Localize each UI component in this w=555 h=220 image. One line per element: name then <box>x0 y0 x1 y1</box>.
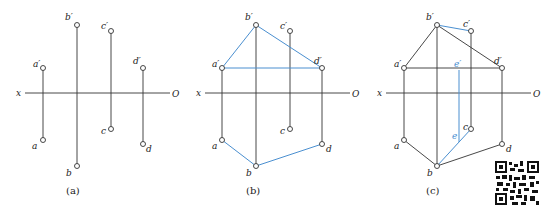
svg-text:d′: d′ <box>133 56 141 66</box>
svg-text:b′: b′ <box>426 12 434 22</box>
svg-text:a: a <box>212 141 217 151</box>
svg-text:c′: c′ <box>101 21 108 31</box>
svg-text:a: a <box>394 141 399 151</box>
svg-text:b′: b′ <box>245 12 253 22</box>
svg-text:c: c <box>101 126 106 136</box>
svg-text:c: c <box>280 126 285 136</box>
svg-text:O: O <box>172 89 180 99</box>
svg-text:O: O <box>352 89 360 99</box>
svg-text:e′: e′ <box>454 59 461 69</box>
svg-text:(a): (a) <box>66 185 80 196</box>
svg-text:(c): (c) <box>426 185 440 196</box>
svg-text:x: x <box>377 88 382 98</box>
svg-text:O: O <box>533 89 541 99</box>
svg-text:b: b <box>246 168 252 178</box>
svg-text:b′: b′ <box>65 12 73 22</box>
svg-text:c′: c′ <box>280 21 287 31</box>
svg-text:a′: a′ <box>212 59 219 69</box>
svg-text:a′: a′ <box>394 59 401 69</box>
svg-text:e: e <box>452 131 457 141</box>
svg-text:d: d <box>326 144 332 154</box>
svg-text:(b): (b) <box>246 185 260 196</box>
panel-b: x O a′ b′ c′ d′ a b c d (b) <box>196 12 360 196</box>
svg-text:d: d <box>146 144 152 154</box>
svg-text:d′: d′ <box>494 56 502 66</box>
svg-text:a′: a′ <box>33 59 40 69</box>
svg-text:c: c <box>463 122 468 132</box>
qr-code <box>494 160 540 206</box>
svg-text:c′: c′ <box>463 19 470 29</box>
svg-text:x: x <box>16 88 21 98</box>
panel-a: x O a′ b′ c′ d′ a b c d (a) <box>16 12 180 196</box>
svg-text:b: b <box>427 168 433 178</box>
svg-text:a: a <box>32 141 37 151</box>
projection-diagram: x O a′ b′ c′ d′ a b c d (a) x O a′ b′ c′… <box>0 0 555 220</box>
svg-text:b: b <box>66 168 72 178</box>
svg-text:d′: d′ <box>314 56 322 66</box>
svg-text:x: x <box>196 88 201 98</box>
svg-text:d: d <box>506 144 512 154</box>
